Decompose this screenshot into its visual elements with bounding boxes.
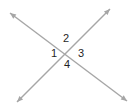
angle-label-4: 4 xyxy=(64,59,70,70)
angle-label-2: 2 xyxy=(63,33,69,44)
angle-label-3: 3 xyxy=(78,48,84,59)
line-ascending xyxy=(17,9,110,102)
lines-layer xyxy=(0,0,133,112)
intersecting-lines-diagram: 1 2 3 4 xyxy=(0,0,133,112)
angle-label-1: 1 xyxy=(51,48,57,59)
